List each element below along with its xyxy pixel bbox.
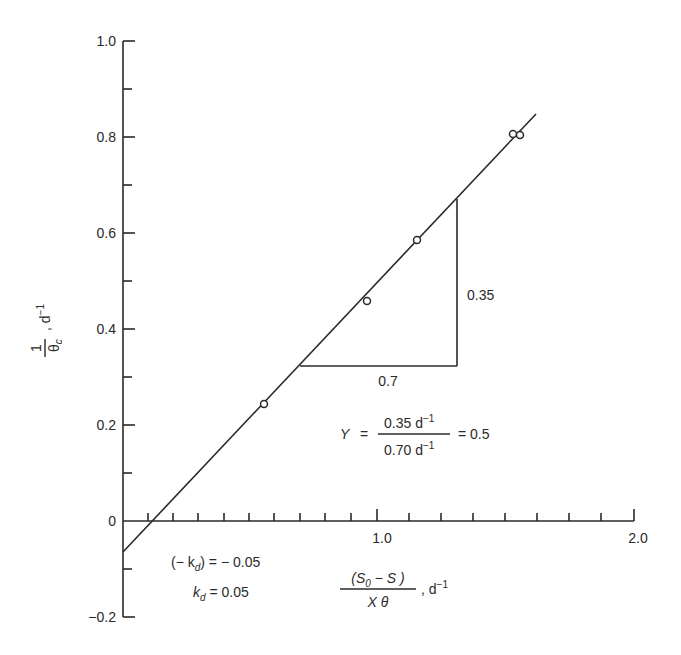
- data-point: [364, 298, 371, 305]
- formula-equals: =: [360, 426, 368, 442]
- data-point: [414, 237, 421, 244]
- data-point: [261, 401, 268, 408]
- x-label-numerator: (S0 − S ): [351, 570, 404, 589]
- data-point: [510, 131, 517, 138]
- chart-canvas: 1.0 0.8 0.6 0.4 0.2 0 −0.2 1.0 2.0 0.7 0…: [0, 0, 681, 655]
- y-label-unit: , d−1: [35, 304, 53, 331]
- x-tick-label: 1.0: [372, 530, 392, 546]
- y-tick-label: 0.6: [97, 225, 117, 241]
- slope-triangle: [300, 199, 457, 366]
- x-ticks: [148, 509, 634, 521]
- formula-denominator: 0.70 d−1: [384, 440, 435, 458]
- formula-lhs: Y: [340, 426, 351, 442]
- x-axis-label: (S0 − S ) X θ , d−1: [340, 570, 448, 610]
- x-tick-label: 2.0: [628, 530, 648, 546]
- fitted-line: [123, 114, 536, 552]
- y-label-denominator: θc: [46, 339, 64, 352]
- y-tick-label: 0: [108, 513, 116, 529]
- x-label-denominator: X θ: [367, 594, 389, 610]
- formula-numerator: 0.35 d−1: [384, 413, 435, 431]
- y-tick-label: 1.0: [97, 33, 117, 49]
- y-tick-label: 0.4: [97, 321, 117, 337]
- kd-annotation-2: kd = 0.05: [193, 584, 249, 603]
- yield-formula: Y = 0.35 d−1 0.70 d−1 = 0.5: [340, 413, 490, 458]
- x-label-unit: , d−1: [421, 579, 448, 597]
- y-label-numerator: 1: [28, 344, 44, 352]
- y-tick-labels: 1.0 0.8 0.6 0.4 0.2 0 −0.2: [88, 33, 116, 625]
- y-tick-label: −0.2: [88, 609, 116, 625]
- triangle-rise-label: 0.35: [467, 287, 494, 303]
- y-axis-label: 1 θc , d−1: [28, 304, 64, 357]
- y-ticks: [123, 41, 135, 617]
- data-point: [517, 132, 524, 139]
- triangle-run-label: 0.7: [378, 373, 398, 389]
- kd-annotation-1: (− kd) = − 0.05: [171, 554, 260, 573]
- formula-result: = 0.5: [458, 426, 490, 442]
- y-tick-label: 0.2: [97, 417, 117, 433]
- x-tick-labels: 1.0 2.0: [372, 530, 648, 546]
- y-tick-label: 0.8: [97, 129, 117, 145]
